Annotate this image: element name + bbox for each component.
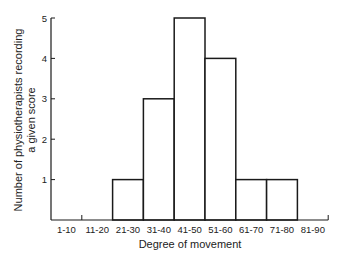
bar-31-40 xyxy=(143,99,174,220)
y-axis-title: Number of physiotherapists recordinga gi… xyxy=(12,29,37,212)
x-tick-label: 81-90 xyxy=(301,224,325,235)
y-tick-label: 1 xyxy=(42,174,47,185)
bar-21-30 xyxy=(113,180,144,220)
bars xyxy=(113,18,298,220)
x-tick-label: 31-40 xyxy=(147,224,171,235)
x-tick-label: 61-70 xyxy=(239,224,263,235)
bar-41-50 xyxy=(174,18,205,220)
x-axis-title: Degree of movement xyxy=(139,238,242,250)
x-tick-label: 11-20 xyxy=(85,224,109,235)
bar-61-70 xyxy=(236,180,267,220)
y-tick-label: 2 xyxy=(42,134,47,145)
y-tick-label: 3 xyxy=(42,93,47,104)
y-axis: 12345 xyxy=(42,13,55,221)
x-tick-label: 21-30 xyxy=(116,224,140,235)
y-axis-title-line: Number of physiotherapists recording xyxy=(12,29,24,212)
x-tick-label: 41-50 xyxy=(177,224,201,235)
y-tick-label: 4 xyxy=(42,53,47,64)
x-tick-label: 1-10 xyxy=(57,224,76,235)
y-axis-title-line: a given score xyxy=(25,87,37,152)
x-tick-label: 51-60 xyxy=(208,224,232,235)
y-tick-label: 5 xyxy=(42,13,47,24)
x-tick-label: 71-80 xyxy=(270,224,294,235)
bar-71-80 xyxy=(267,180,298,220)
bar-51-60 xyxy=(205,58,236,220)
histogram-chart: Number of physiotherapists recordinga gi… xyxy=(0,0,341,259)
